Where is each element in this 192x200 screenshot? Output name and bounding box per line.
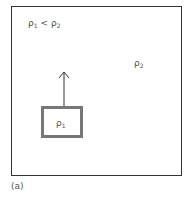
caption: (a) [11, 181, 24, 191]
relation-label: ρ1<ρ2 [28, 18, 61, 29]
diagram: ρ1<ρ2 ρ2 ρ1 (a) [0, 0, 192, 200]
medium-density-label: ρ2 [134, 58, 144, 69]
medium-frame [12, 7, 182, 176]
